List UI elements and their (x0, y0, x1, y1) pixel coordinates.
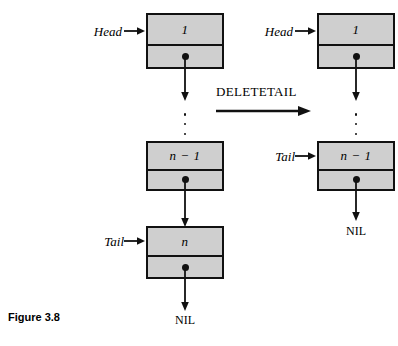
after-ellipsis (352, 113, 360, 135)
before-tail-arrow (124, 236, 146, 246)
before-node-n-value: n (148, 228, 222, 257)
after-tail-label: Tail (249, 149, 295, 165)
after-head-label: Head (241, 24, 293, 40)
operation-arrow (216, 105, 312, 115)
after-head-arrow (295, 26, 317, 36)
before-link-arrow-2 (180, 178, 190, 228)
before-head-label: Head (70, 24, 122, 40)
after-nil-arrow (351, 178, 361, 222)
figure-container: Head 1 n − 1 Tail (0, 0, 398, 346)
before-nil-arrow (180, 266, 190, 312)
before-link-arrow-1 (180, 56, 190, 102)
operation-label: DELETETAIL (216, 84, 297, 100)
after-link-arrow-1 (351, 56, 361, 102)
before-node-n-minus-1-value: n − 1 (148, 143, 222, 171)
before-nil-label: NIL (160, 313, 210, 328)
after-tail-arrow (295, 151, 317, 161)
before-tail-label: Tail (78, 234, 124, 250)
figure-caption: Figure 3.8 (8, 311, 60, 323)
before-head-arrow (124, 26, 146, 36)
after-node-1-value: 1 (319, 15, 393, 46)
after-nil-label: NIL (331, 224, 381, 239)
before-node-1-value: 1 (148, 15, 222, 46)
before-ellipsis (181, 113, 189, 135)
after-node-n-minus-1-value: n − 1 (319, 143, 393, 171)
